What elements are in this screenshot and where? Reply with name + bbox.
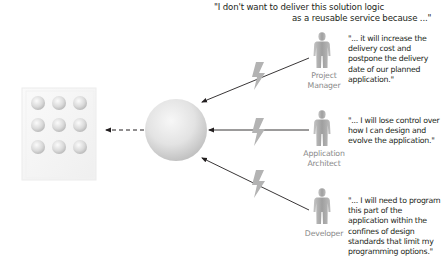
quote-project-manager: "... it will increase the delivery cost … (348, 34, 444, 85)
role-label-line1: Application (296, 149, 352, 159)
person-icon (314, 188, 331, 224)
person-icon (314, 110, 331, 146)
role-application-architect: Application Architect (296, 149, 352, 169)
person-icon (314, 32, 331, 68)
role-label-line2: Manager (302, 81, 346, 91)
quote-developer: "... I will need to program this part of… (348, 196, 444, 257)
application-grid-icon (22, 88, 96, 180)
heading-quote: "I don't want to deliver this solution l… (214, 2, 436, 24)
lightning-bolt-icon (252, 170, 265, 198)
lightning-bolt-icon (252, 62, 265, 90)
role-project-manager: Project Manager (302, 71, 346, 91)
heading-line-2: as a reusable service because ..." (214, 13, 436, 24)
role-label-line1: Project (302, 71, 346, 81)
role-label-line2: Architect (296, 159, 352, 169)
role-label-line1: Developer (298, 229, 350, 239)
role-developer: Developer (298, 229, 350, 239)
sphere-service-icon (145, 99, 207, 161)
lightning-bolt-icon (252, 118, 265, 146)
heading-line-1: "I don't want to deliver this solution l… (214, 2, 436, 13)
quote-application-architect: "... I will lose control over how I can … (348, 116, 444, 147)
